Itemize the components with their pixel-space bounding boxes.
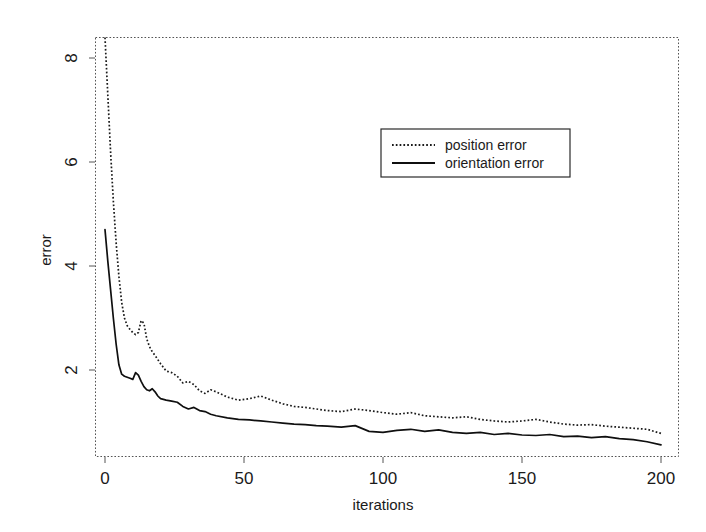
y-axis-ticks xyxy=(89,58,95,370)
chart-canvas: 8 6 4 2 error 0 50 100 150 200 iteration… xyxy=(0,0,706,532)
series-position-error xyxy=(105,38,661,434)
x-tick-label: 100 xyxy=(369,469,397,488)
x-tick-label: 0 xyxy=(100,469,109,488)
x-axis-title: iterations xyxy=(353,496,414,513)
chart-figure: 8 6 4 2 error 0 50 100 150 200 iteration… xyxy=(0,0,706,532)
y-axis-title: error xyxy=(37,234,54,266)
x-tick-label: 150 xyxy=(508,469,536,488)
y-tick-label: 4 xyxy=(62,261,81,270)
plot-frame xyxy=(96,38,679,457)
y-tick-label: 6 xyxy=(62,157,81,166)
x-tick-label: 200 xyxy=(647,469,675,488)
x-tick-label: 50 xyxy=(235,469,254,488)
legend-label-orientation-error: orientation error xyxy=(445,155,544,171)
x-axis-tick-labels: 0 50 100 150 200 xyxy=(100,469,675,488)
x-axis-ticks xyxy=(105,457,661,463)
legend: position error orientation error xyxy=(381,129,570,177)
y-tick-label: 8 xyxy=(62,53,81,62)
series-orientation-error xyxy=(105,230,661,445)
y-tick-label: 2 xyxy=(62,365,81,374)
y-axis-tick-labels: 8 6 4 2 xyxy=(62,53,81,374)
legend-label-position-error: position error xyxy=(445,137,527,153)
